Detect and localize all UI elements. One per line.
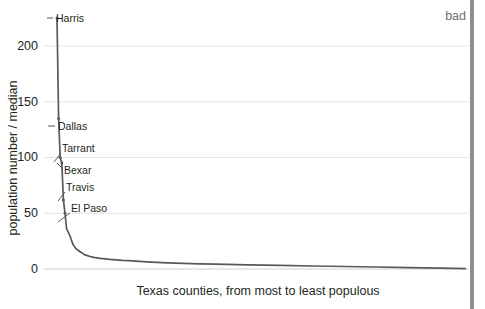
bad-note-label: bad (445, 9, 466, 23)
x-axis-title: Texas counties, from most to least popul… (136, 284, 379, 298)
right-edge-bar (470, 0, 474, 309)
y-tick-100: 100 (17, 150, 38, 164)
data-point-travis (62, 198, 65, 201)
label-travis: Travis (66, 181, 94, 193)
label-harris: Harris (56, 12, 84, 24)
data-point-tarrant (59, 156, 62, 159)
y-tick-150: 150 (17, 95, 38, 109)
data-point-bexar (60, 162, 63, 165)
y-tick-200: 200 (17, 39, 38, 53)
chart-figure: 200 150 100 50 0 population number / med… (0, 0, 485, 309)
data-point-elpaso (64, 212, 67, 215)
label-dallas: Dallas (58, 120, 87, 132)
y-tick-50: 50 (24, 206, 38, 220)
label-bexar: Bexar (64, 164, 92, 176)
population-decay-chart: 200 150 100 50 0 population number / med… (0, 0, 485, 309)
label-elpaso: El Paso (71, 202, 107, 214)
label-tarrant: Tarrant (62, 142, 95, 154)
y-axis-title: population number / median (6, 80, 20, 235)
y-tick-0: 0 (31, 262, 38, 276)
